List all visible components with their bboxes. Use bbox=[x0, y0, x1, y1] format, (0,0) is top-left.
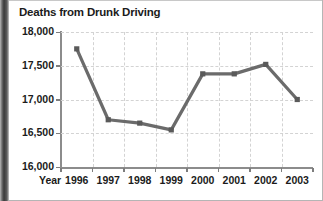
x-axis-tick bbox=[155, 168, 157, 172]
x-axis-tick-label: 1998 bbox=[128, 174, 151, 186]
x-axis-tick-label: 1999 bbox=[160, 174, 183, 186]
y-axis-tick-label: 16,500 bbox=[22, 126, 54, 138]
gridline-vertical bbox=[219, 32, 220, 167]
y-axis-tick bbox=[56, 133, 60, 135]
x-axis-tick-label: 2001 bbox=[223, 174, 246, 186]
gridline-vertical bbox=[93, 32, 94, 167]
figure-frame-top bbox=[9, 0, 323, 1]
x-axis-tick bbox=[186, 168, 188, 172]
y-axis-tick-label: 17,000 bbox=[22, 93, 54, 105]
plot-area bbox=[61, 32, 313, 167]
x-axis-tick bbox=[123, 168, 125, 172]
y-axis-tick bbox=[56, 32, 60, 34]
chart-screenshot: Deaths from Drunk Driving 18,00017,50017… bbox=[0, 0, 323, 201]
figure-frame-bottom bbox=[9, 200, 323, 201]
x-axis-tick bbox=[249, 168, 251, 172]
y-axis-tick-label: 16,000 bbox=[22, 160, 54, 172]
x-axis-tick bbox=[312, 168, 314, 172]
y-axis-labels: 18,00017,50017,00016,50016,000 bbox=[10, 0, 54, 201]
y-axis-tick bbox=[56, 65, 60, 67]
y-axis-tick-label: 18,000 bbox=[22, 25, 54, 37]
gridline-vertical bbox=[187, 32, 188, 167]
x-axis-tick bbox=[281, 168, 283, 172]
x-axis-labels: 19961997199819992000200120022003 bbox=[0, 174, 323, 190]
gridline-vertical bbox=[282, 32, 283, 167]
x-axis-tick-label: 1996 bbox=[65, 174, 88, 186]
page-spine-edge bbox=[0, 0, 9, 201]
x-axis-tick bbox=[92, 168, 94, 172]
x-axis-tick bbox=[60, 168, 62, 172]
x-axis-tick-label: 1997 bbox=[97, 174, 120, 186]
gridline-vertical bbox=[124, 32, 125, 167]
y-axis-tick bbox=[56, 99, 60, 101]
gridline-vertical bbox=[250, 32, 251, 167]
x-axis-tick-label: 2003 bbox=[286, 174, 309, 186]
x-axis-tick-label: 2000 bbox=[191, 174, 214, 186]
gridline-vertical bbox=[156, 32, 157, 167]
y-axis-tick-label: 17,500 bbox=[22, 59, 54, 71]
x-axis-tick-label: 2002 bbox=[254, 174, 277, 186]
x-axis-tick bbox=[218, 168, 220, 172]
